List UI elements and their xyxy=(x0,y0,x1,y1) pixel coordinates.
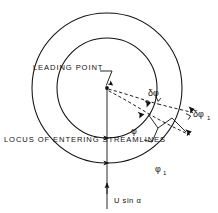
delta-phi-one-base: δφ xyxy=(193,109,204,119)
delta-phi-one-subscript: 1 xyxy=(207,115,211,121)
center-arc-tick xyxy=(108,81,114,86)
ray-phi-one-dashed-outer xyxy=(158,104,193,113)
ray-phi-one-plus-delta-dashed xyxy=(148,113,190,135)
phi-one-subscript: 1 xyxy=(163,170,167,176)
leading-point-label: LEADING POINT xyxy=(33,63,103,72)
leading-point-marker xyxy=(105,86,109,90)
phi-one-base: φ xyxy=(155,164,161,174)
phi-label: φ xyxy=(131,126,137,136)
inner-circle-phi-arrowhead xyxy=(138,112,145,119)
delta-phi-one-label: δφ 1 xyxy=(193,109,211,121)
inner-circle-phi-delta-arrowhead xyxy=(145,101,152,108)
streamline-locus-diagram: LEADING POINT LOCUS OF ENTERING STREAMLI… xyxy=(0,0,218,213)
ray-phi-plus-delta-dashed xyxy=(109,91,148,114)
delta-phi-label: δφ xyxy=(148,88,159,98)
delta-phi-one-leader xyxy=(186,114,191,120)
phi-one-label: φ 1 xyxy=(155,164,167,176)
outer-circle-phi-one-arrowhead xyxy=(185,129,192,136)
locus-label: LOCUS OF ENTERING STREAMLINES xyxy=(4,135,166,144)
figure-root: LEADING POINT LOCUS OF ENTERING STREAMLI… xyxy=(0,0,218,213)
free-stream-label: U sin α xyxy=(114,196,141,205)
